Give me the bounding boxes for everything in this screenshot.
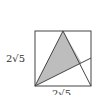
bottom-side-label: 2√5 [52,89,71,95]
geometry-figure [0,0,97,95]
left-side-label: 2√5 [6,54,25,64]
